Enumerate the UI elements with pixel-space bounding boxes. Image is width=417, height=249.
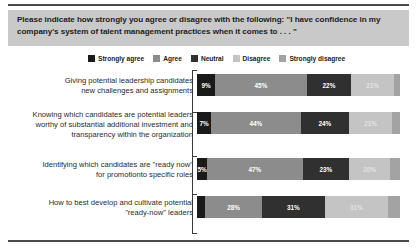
legend-label: Agree — [163, 55, 182, 62]
bar-segment-value: 7% — [199, 120, 208, 127]
chart-row: Knowing which candidates are potential l… — [0, 114, 417, 152]
row-category-label-line: Giving potential leadership candidates — [21, 76, 193, 86]
bar-segment-value: 23% — [319, 166, 332, 173]
bar-segment-value: 31% — [287, 204, 300, 211]
stacked-bar: 9%45%22%21% — [197, 74, 400, 96]
row-category-label-line: new challenges and assignments — [21, 86, 193, 96]
row-category-label-line: How to best develop and cultivate potent… — [21, 198, 193, 208]
bar-segment-value: 45% — [255, 82, 268, 89]
bar-segment-value: 24% — [318, 120, 331, 127]
bar-segment: 5% — [197, 158, 207, 180]
chart-row: Identifying which candidates are "ready … — [0, 160, 417, 198]
top-rule — [8, 4, 409, 6]
legend-label: Neutral — [201, 55, 224, 62]
bar-segment-value: 21% — [366, 82, 379, 89]
bar-segment: 21% — [351, 74, 394, 96]
bar-segment-value: 20% — [363, 166, 376, 173]
row-category-label-line: transparency within the organization — [21, 130, 193, 140]
row-category-label-line: Identifying which candidates are "ready … — [21, 160, 193, 170]
bar-segment: 21% — [349, 112, 392, 134]
stacked-bar: 7%44%24%21% — [197, 112, 400, 134]
bar-segment-value: 5% — [197, 166, 206, 173]
row-category-label: Giving potential leadership candidatesne… — [21, 76, 193, 96]
row-category-label-line: for promotionto specific roles — [21, 170, 193, 180]
row-category-label: How to best develop and cultivate potent… — [21, 198, 193, 218]
bar-segment-value: 21% — [364, 120, 377, 127]
axis-tick — [192, 156, 197, 157]
plot-area: Giving potential leadership candidatesne… — [0, 70, 417, 238]
bar-segment-value: 31% — [350, 204, 363, 211]
bar-segment: 31% — [325, 196, 388, 218]
chart-row: How to best develop and cultivate potent… — [0, 198, 417, 236]
bar-segment: 22% — [307, 74, 352, 96]
row-category-label: Knowing which candidates are potential l… — [21, 110, 193, 140]
chart-title: Please indicate how strongly you agree o… — [17, 14, 404, 37]
legend-label: Strongly disagree — [289, 55, 345, 62]
legend-item: Agree — [153, 55, 182, 62]
bar-segment — [394, 74, 400, 96]
axis-tick — [192, 194, 197, 195]
bar-segment: 45% — [215, 74, 306, 96]
bar-segment: 24% — [301, 112, 350, 134]
row-category-label: Identifying which candidates are "ready … — [21, 160, 193, 180]
bar-segment: 9% — [197, 74, 215, 96]
bar-segment — [392, 112, 400, 134]
legend-label: Disagree — [243, 55, 271, 62]
bottom-rule — [8, 240, 409, 242]
stacked-bar: 5%47%23%20% — [197, 158, 400, 180]
bar-segment: 47% — [207, 158, 302, 180]
legend-swatch-icon — [279, 55, 286, 62]
stacked-bar: 28%31%31% — [197, 196, 400, 218]
legend-item: Neutral — [191, 55, 224, 62]
chart-row: Giving potential leadership candidatesne… — [0, 74, 417, 112]
bar-segment: 20% — [349, 158, 390, 180]
bar-segment: 23% — [303, 158, 350, 180]
legend-swatch-icon — [233, 55, 240, 62]
legend-item: Strongly disagree — [279, 55, 345, 62]
legend-item: Disagree — [233, 55, 271, 62]
legend-swatch-icon — [153, 55, 160, 62]
bar-segment: 28% — [205, 196, 262, 218]
bar-segment-value: 47% — [248, 166, 261, 173]
bar-segment-value: 22% — [323, 82, 336, 89]
bar-segment — [388, 196, 400, 218]
legend-label: Strongly agree — [98, 55, 144, 62]
bar-segment-value: 44% — [249, 120, 262, 127]
bar-segment-value: 9% — [202, 82, 211, 89]
axis-tick — [192, 112, 197, 113]
bar-segment: 44% — [211, 112, 300, 134]
chart-legend: Strongly agreeAgreeNeutralDisagreeStrong… — [88, 55, 345, 62]
legend-swatch-icon — [88, 55, 95, 62]
bar-segment — [197, 196, 205, 218]
bar-segment — [390, 158, 400, 180]
bar-segment-value: 28% — [227, 204, 240, 211]
row-category-label-line: "ready-now" leaders — [21, 208, 193, 218]
legend-item: Strongly agree — [88, 55, 144, 62]
chart-figure: Please indicate how strongly you agree o… — [0, 0, 417, 249]
legend-swatch-icon — [191, 55, 198, 62]
row-category-label-line: Knowing which candidates are potential l… — [21, 110, 193, 120]
row-category-label-line: worthy of substantial additional investm… — [21, 120, 193, 130]
bar-segment: 7% — [197, 112, 211, 134]
bar-segment: 31% — [262, 196, 325, 218]
